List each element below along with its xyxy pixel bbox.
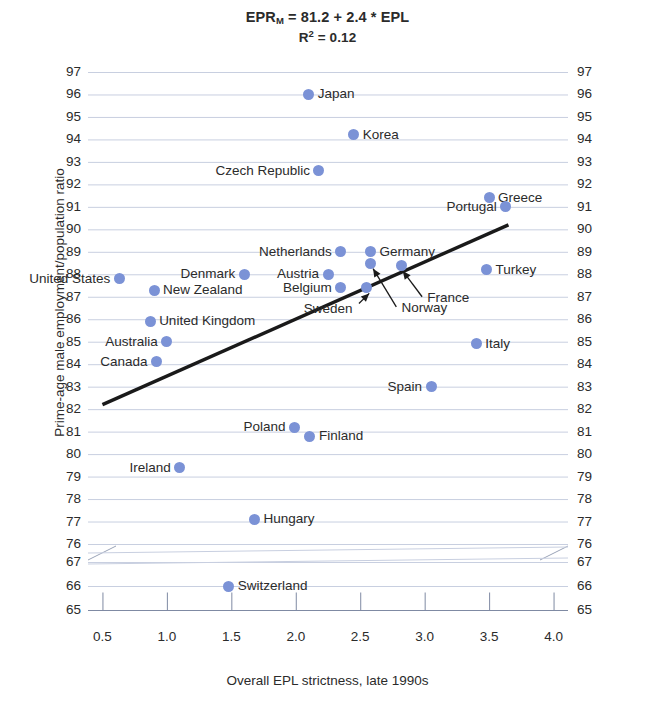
title-epr-text: EPR — [246, 9, 276, 25]
y-tick-label-left: 96 — [66, 87, 81, 101]
point-label: Finland — [319, 429, 363, 443]
y-tick-label-right: 85 — [577, 335, 592, 349]
y-tick-label-right: 94 — [577, 132, 592, 146]
annotation-label-sweden: Sweden — [304, 302, 353, 316]
point-label: United States — [29, 272, 110, 286]
x-tick-label: 2.5 — [351, 629, 370, 644]
y-tick-label-right: 89 — [577, 245, 592, 259]
y-tick-label-left: 95 — [66, 110, 81, 124]
chart-title-equation: EPRM = 81.2 + 2.4 * EPL — [0, 8, 655, 28]
y-tick-label-right: 87 — [577, 290, 592, 304]
x-axis-title: Overall EPL strictness, late 1990s — [0, 673, 655, 688]
x-tick-label: 2.0 — [286, 629, 305, 644]
y-tick-label-left: 81 — [66, 425, 81, 439]
chart-figure: EPRM = 81.2 + 2.4 * EPL R2 = 0.12 Prime-… — [0, 0, 655, 714]
data-point — [114, 273, 125, 284]
point-label: Switzerland — [238, 579, 308, 593]
y-tick-label-left: 89 — [66, 245, 81, 259]
data-point — [396, 260, 407, 271]
y-tick-label-left: 65 — [66, 603, 81, 617]
point-label: Austria — [277, 268, 319, 282]
point-label: Italy — [485, 337, 510, 351]
y-tick-label-right: 83 — [577, 380, 592, 394]
data-point — [289, 422, 300, 433]
x-tick-label: 0.5 — [93, 629, 112, 644]
y-tick-label-left: 79 — [66, 470, 81, 484]
point-label: Denmark — [180, 268, 235, 282]
y-tick-label-right: 92 — [577, 177, 592, 191]
y-tick-label-left: 93 — [66, 155, 81, 169]
y-tick-label-right: 81 — [577, 425, 592, 439]
data-point — [323, 269, 334, 280]
y-tick-label-left: 86 — [66, 312, 81, 326]
y-tick-label-left: 92 — [66, 177, 81, 191]
y-tick-label-left: 77 — [66, 515, 81, 529]
data-point — [249, 514, 260, 525]
x-tick-label: 3.0 — [415, 629, 434, 644]
y-tick-label-right: 93 — [577, 155, 592, 169]
y-tick-label-right: 76 — [577, 537, 592, 551]
x-tick-label: 1.5 — [222, 629, 241, 644]
point-label: Turkey — [496, 263, 537, 277]
y-tick-label-left: 80 — [66, 447, 81, 461]
data-point — [145, 316, 156, 327]
y-tick-label-right: 90 — [577, 222, 592, 236]
point-label: Korea — [363, 128, 399, 142]
annotation-label-norway: Norway — [401, 301, 447, 315]
point-label: Portugal — [447, 200, 497, 214]
y-tick-label-right: 88 — [577, 267, 592, 281]
point-label: Netherlands — [259, 245, 332, 259]
point-label: Spain — [388, 380, 423, 394]
y-tick-label-left: 91 — [66, 200, 81, 214]
data-point — [149, 285, 160, 296]
y-tick-label-left: 83 — [66, 380, 81, 394]
y-tick-label-right: 67 — [577, 555, 592, 569]
y-tick-label-left: 85 — [66, 335, 81, 349]
plot-area: 9797969695959494939392929191909089898888… — [88, 66, 568, 625]
y-tick-label-right: 77 — [577, 515, 592, 529]
y-tick-label-right: 95 — [577, 110, 592, 124]
y-tick-label-left: 94 — [66, 132, 81, 146]
y-tick-label-left: 76 — [66, 537, 81, 551]
point-label: Belgium — [283, 281, 332, 295]
y-tick-label-left: 97 — [66, 65, 81, 79]
y-tick-label-right: 97 — [577, 65, 592, 79]
y-axis-title: Prime-age male employment/population rat… — [52, 93, 67, 513]
title-subscript-m: M — [276, 15, 284, 26]
data-point — [365, 258, 376, 269]
x-tick-label: 1.0 — [157, 629, 176, 644]
y-tick-label-right: 91 — [577, 200, 592, 214]
y-tick-label-left: 78 — [66, 492, 81, 506]
title-r-text: R — [299, 30, 309, 45]
y-tick-label-right: 66 — [577, 579, 592, 593]
point-label: Australia — [105, 335, 158, 349]
axis-break-line-upper — [88, 547, 568, 553]
y-tick-label-right: 78 — [577, 492, 592, 506]
y-tick-label-left: 82 — [66, 402, 81, 416]
y-tick-label-right: 86 — [577, 312, 592, 326]
x-tick-label: 4.0 — [544, 629, 563, 644]
point-label: Canada — [100, 355, 147, 369]
data-point — [223, 581, 234, 592]
y-tick-label-left: 67 — [66, 555, 81, 569]
title-equation-rest: = 81.2 + 2.4 * EPL — [284, 9, 409, 25]
point-label: Poland — [243, 420, 285, 434]
point-label: Japan — [318, 88, 355, 102]
chart-subtitle-r2: R2 = 0.12 — [0, 28, 655, 47]
point-label: Czech Republic — [215, 164, 310, 178]
y-tick-label-left: 90 — [66, 222, 81, 236]
y-tick-label-right: 82 — [577, 402, 592, 416]
y-tick-label-right: 80 — [577, 447, 592, 461]
chart-title: EPRM = 81.2 + 2.4 * EPL R2 = 0.12 — [0, 8, 655, 47]
data-point — [426, 381, 437, 392]
y-tick-label-left: 87 — [66, 290, 81, 304]
point-label: Hungary — [264, 513, 315, 527]
y-tick-label-left: 84 — [66, 357, 81, 371]
y-tick-label-right: 96 — [577, 87, 592, 101]
title-r2-rest: = 0.12 — [314, 30, 356, 45]
point-label: New Zealand — [163, 283, 243, 297]
y-tick-label-right: 84 — [577, 357, 592, 371]
y-tick-label-left: 66 — [66, 579, 81, 593]
axis-break-line-lower — [88, 558, 568, 564]
y-tick-label-right: 79 — [577, 470, 592, 484]
